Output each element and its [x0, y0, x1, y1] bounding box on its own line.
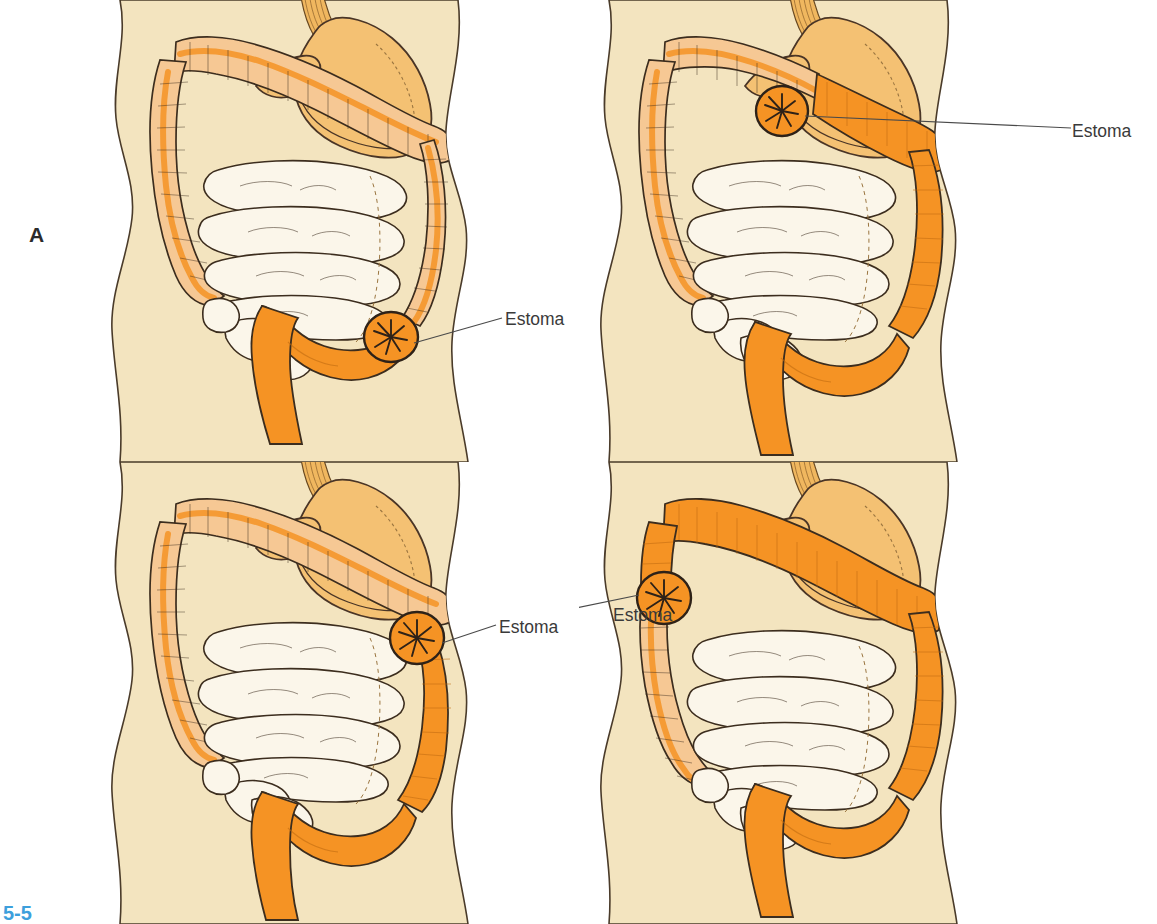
stoma-disc	[756, 86, 808, 136]
figure-number: 5-5	[3, 903, 32, 924]
estoma-label-d: Estoma	[613, 607, 672, 625]
panel-d-illustration	[579, 462, 1157, 924]
estoma-label-a: Estoma	[505, 311, 564, 329]
panel-b: B	[0, 462, 578, 924]
panel-c: C	[579, 0, 1157, 462]
figure-root: A Estoma	[0, 0, 1157, 924]
stoma-disc	[364, 312, 418, 362]
estoma-label-c: Estoma	[1072, 123, 1131, 141]
panel-a: A Estoma	[0, 0, 578, 462]
panel-letter-a: A	[29, 224, 45, 245]
estoma-label-b: Estoma	[499, 619, 558, 637]
panel-c-illustration	[579, 0, 1157, 462]
panel-d: D	[579, 462, 1157, 924]
stoma-disc	[390, 612, 444, 664]
panel-a-illustration	[0, 0, 578, 462]
panel-b-illustration	[0, 462, 578, 924]
